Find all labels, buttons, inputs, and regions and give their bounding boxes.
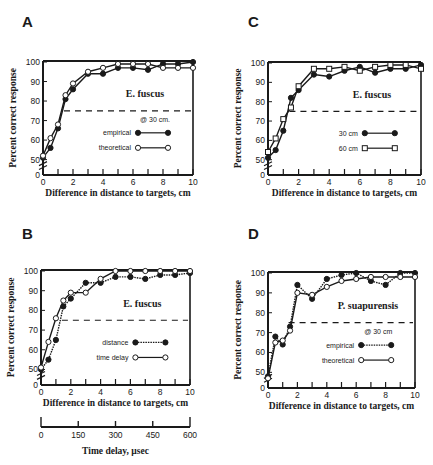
y-tick-label: 100 (24, 266, 38, 276)
data-point (175, 65, 180, 70)
data-point (339, 272, 344, 277)
data-point (158, 268, 163, 273)
series-line-empirical (43, 62, 193, 158)
data-point (85, 69, 90, 74)
x-tick-label: 10 (188, 177, 198, 187)
data-point-square (327, 66, 332, 71)
legend-marker (163, 355, 168, 360)
x-tick-label: 6 (128, 387, 133, 397)
legend-note: @ 30 cm (364, 328, 392, 335)
data-point (130, 61, 135, 66)
data-point (383, 282, 388, 287)
data-point (295, 290, 300, 295)
legend-label: distance (102, 339, 128, 346)
data-point (53, 337, 58, 342)
legend-marker (163, 340, 168, 345)
x-tick-label: 0 (266, 177, 271, 187)
legend-marker (362, 131, 367, 136)
data-point (281, 128, 286, 133)
y-tick-label: 50 (31, 155, 41, 165)
data-point (190, 65, 195, 70)
y-axis-title: Percent correct response (233, 280, 243, 380)
data-point (113, 274, 118, 279)
legend-note: @ 30 cm. (140, 116, 170, 123)
data-point (354, 276, 359, 281)
y-tick-label: 0 (35, 170, 40, 180)
y-tick-label: 60 (29, 345, 39, 355)
legend-marker (135, 130, 140, 135)
species-label: E. fuscus (353, 89, 391, 100)
y-tick-label: 0 (260, 383, 265, 393)
chart-panel-b: 050607080901000246810Difference in dista… (6, 266, 197, 456)
x-tick-label: 6 (131, 177, 136, 187)
data-point (98, 276, 103, 281)
x-tick-label: 6 (357, 177, 362, 187)
y-tick-label: 70 (256, 328, 266, 338)
y-tick-label: 60 (31, 135, 41, 145)
data-point (68, 296, 73, 301)
y-axis-title: Percent correct response (233, 69, 243, 169)
data-point (280, 338, 285, 343)
legend-marker (359, 342, 364, 347)
data-point (383, 274, 388, 279)
y-tick-label: 50 (256, 155, 266, 165)
data-point (327, 74, 332, 79)
legend-marker (133, 340, 138, 345)
x-tick-label: 2 (296, 177, 301, 187)
y-tick-label: 0 (260, 170, 265, 180)
data-point (324, 284, 329, 289)
data-point (48, 145, 53, 150)
data-point-square (357, 68, 362, 73)
data-point-square (388, 62, 393, 67)
data-point-square (373, 64, 378, 69)
data-point-square (288, 105, 293, 110)
data-point (68, 290, 73, 295)
y-tick-label: 80 (256, 97, 266, 107)
x-tick-label: 8 (388, 177, 393, 187)
legend-label: 60 cm (339, 145, 358, 152)
x-axis-title: Difference in distance to targets, cm (43, 398, 189, 408)
x-tick-label: 2 (68, 387, 73, 397)
data-point (295, 282, 300, 287)
time-delay-tick-label: 0 (39, 430, 44, 440)
y-tick-label: 50 (29, 364, 39, 374)
y-tick-label: 100 (26, 57, 40, 67)
x-tick-label: 6 (354, 390, 359, 400)
x-tick-label: 2 (295, 390, 300, 400)
legend-label: empirical (326, 342, 354, 350)
y-tick-label: 50 (256, 367, 266, 377)
data-point (83, 280, 88, 285)
data-point (339, 278, 344, 283)
y-tick-label: 90 (256, 77, 266, 87)
data-point (46, 357, 51, 362)
data-point-square (266, 150, 271, 155)
legend-marker (165, 130, 170, 135)
data-point (128, 268, 133, 273)
data-point (273, 340, 278, 345)
y-tick-label: 100 (251, 268, 265, 278)
x-tick-label: 8 (383, 390, 388, 400)
chart-panel-c: 050607080901000246810Difference in dista… (233, 58, 426, 198)
x-tick-label: 4 (324, 390, 329, 400)
data-point (273, 147, 278, 152)
time-delay-tick-label: 600 (183, 430, 197, 440)
data-point-square (311, 66, 316, 71)
data-point (273, 334, 278, 339)
series-line-theoretical (43, 64, 193, 156)
data-point-square (273, 136, 278, 141)
chart-panel-d: 050607080901000246810Difference in dista… (233, 268, 420, 411)
time-delay-tick-label: 300 (108, 430, 122, 440)
y-tick-label: 70 (31, 116, 41, 126)
x-tick-label: 4 (101, 177, 106, 187)
data-point (40, 153, 45, 158)
species-label: E. fuscus (123, 298, 161, 309)
data-point (38, 365, 43, 370)
y-tick-label: 60 (256, 135, 266, 145)
data-point (113, 268, 118, 273)
data-point (288, 95, 293, 100)
x-tick-label: 2 (71, 177, 76, 187)
x-tick-label: 10 (416, 177, 426, 187)
y-tick-label: 0 (33, 380, 38, 390)
x-tick-label: 8 (161, 177, 166, 187)
x-tick-label: 8 (158, 387, 163, 397)
